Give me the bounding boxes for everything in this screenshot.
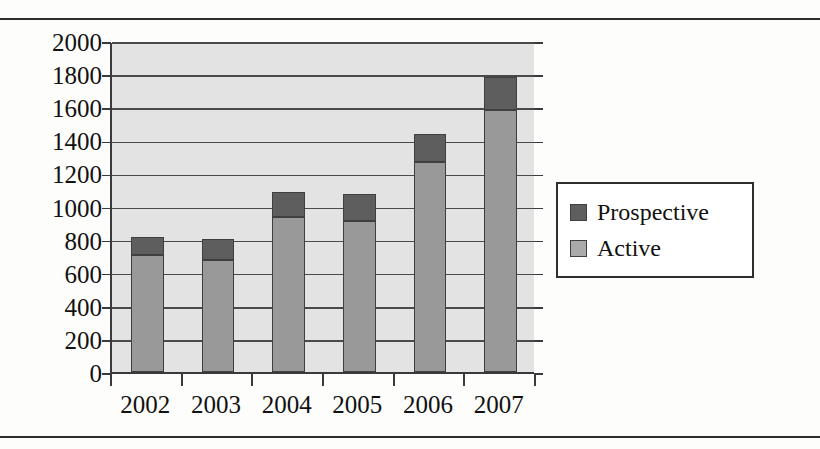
y-axis-right-ticks — [534, 43, 546, 374]
gridline — [112, 175, 534, 177]
x-axis-tick-mark — [322, 374, 324, 386]
gridline — [112, 340, 534, 342]
bar-segment-prospective — [202, 239, 235, 261]
bar-segment-prospective — [484, 77, 517, 109]
legend-item-prospective[interactable]: Prospective — [570, 194, 742, 230]
y-axis-right-tick-mark — [534, 307, 543, 309]
gridline — [112, 75, 534, 77]
y-axis-right-tick-mark — [534, 340, 543, 342]
x-axis-ticks — [110, 374, 536, 388]
chart-legend: ProspectiveActive — [556, 182, 754, 278]
bar-segment-prospective — [272, 192, 305, 218]
x-axis-tick-mark — [534, 374, 536, 386]
gridline — [112, 307, 534, 309]
x-axis-tick-label-2002: 2002 — [110, 390, 181, 420]
bar-segment-prospective — [343, 194, 376, 221]
y-axis-ticks — [0, 43, 112, 374]
y-axis-right-tick-mark — [534, 108, 543, 110]
bar-segment-active — [202, 260, 235, 372]
x-axis-tick-mark — [110, 374, 112, 386]
bar-segment-active — [414, 162, 447, 372]
bar-2003 — [202, 43, 235, 372]
y-axis-right-tick-mark — [534, 208, 543, 210]
bar-segment-active — [343, 221, 376, 372]
x-axis-tick-label-2006: 2006 — [393, 390, 464, 420]
bar-segment-active — [131, 255, 164, 373]
bar-segment-active — [484, 110, 517, 372]
gridline — [112, 208, 534, 210]
legend-label: Active — [597, 235, 661, 261]
bar-2002 — [131, 43, 164, 372]
y-axis-right-tick-mark — [534, 241, 543, 243]
x-axis-tick-mark — [463, 374, 465, 386]
gridline — [112, 142, 534, 144]
bar-segment-prospective — [131, 237, 164, 254]
y-axis-right-tick-mark — [534, 42, 543, 44]
gridline — [112, 241, 534, 243]
legend-swatch-icon — [570, 204, 587, 221]
legend-label: Prospective — [597, 199, 709, 225]
y-axis-right-tick-mark — [534, 75, 543, 77]
x-axis-tick-mark — [181, 374, 183, 386]
page-rule-bottom — [0, 436, 820, 438]
gridline — [112, 274, 534, 276]
legend-swatch-icon — [570, 240, 587, 257]
bar-2006 — [414, 43, 447, 372]
bar-2007 — [484, 43, 517, 372]
x-axis-tick-label-2005: 2005 — [322, 390, 393, 420]
bar-2004 — [272, 43, 305, 372]
bar-2005 — [343, 43, 376, 372]
stacked-bar-chart: 2000180016001400120010008006004002000 20… — [0, 18, 820, 436]
bar-segment-active — [272, 217, 305, 372]
plot-area — [110, 43, 534, 374]
y-axis-right-tick-mark — [534, 142, 543, 144]
gridline — [112, 108, 534, 110]
x-axis-tick-label-2007: 2007 — [463, 390, 534, 420]
gridline — [112, 42, 534, 44]
y-axis-right-tick-mark — [534, 274, 543, 276]
x-axis-tick-label-2003: 2003 — [181, 390, 252, 420]
x-axis-tick-mark — [251, 374, 253, 386]
y-axis-right-tick-mark — [534, 175, 543, 177]
legend-item-active[interactable]: Active — [570, 230, 742, 266]
x-axis-tick-mark — [393, 374, 395, 386]
bar-segment-prospective — [414, 134, 447, 162]
x-axis-labels: 200220032004200520062007 — [110, 390, 534, 424]
x-axis-tick-label-2004: 2004 — [251, 390, 322, 420]
